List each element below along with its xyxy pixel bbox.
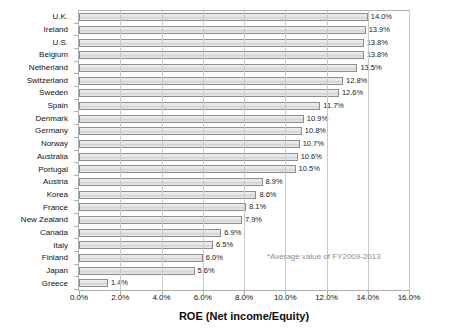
x-axis-tick [327, 291, 328, 295]
bar-value-label: 14.0% [371, 14, 392, 22]
bar-value-label: 10.9% [307, 115, 328, 123]
bar-value-label: 7.9% [245, 216, 262, 224]
chart-container: U.K.IrelandU.S.BelgiumNetherlandSwitzerl… [0, 0, 452, 333]
category-label: Canada [40, 229, 68, 237]
x-axis-tick [79, 291, 80, 295]
gridline [120, 11, 121, 290]
bar [79, 39, 364, 47]
category-label: U.S. [52, 39, 68, 47]
bar [79, 267, 195, 275]
bar [79, 153, 298, 161]
bar-value-label: 8.6% [259, 191, 276, 199]
bar [79, 51, 364, 59]
category-label: Belgium [39, 51, 68, 59]
gridline [244, 11, 245, 290]
bar-value-label: 10.8% [305, 128, 326, 136]
bar-value-label: 6.9% [224, 229, 241, 237]
category-label: Austria [43, 178, 68, 186]
bar-value-label: 12.6% [342, 90, 363, 98]
bar-value-label: 10.7% [303, 140, 324, 148]
y-axis-category-labels: U.K.IrelandU.S.BelgiumNetherlandSwitzerl… [0, 10, 74, 291]
bar [79, 229, 221, 237]
category-label: Australia [37, 153, 68, 161]
bar-value-label: 5.6% [198, 267, 215, 275]
bar [79, 26, 366, 34]
gridline [285, 11, 286, 290]
category-label: Germany [35, 127, 68, 135]
x-axis-tick [244, 291, 245, 295]
gridline [409, 11, 410, 290]
bar [79, 254, 203, 262]
x-axis-tick [368, 291, 369, 295]
category-label: Netherland [29, 64, 68, 72]
category-label: U.K. [52, 13, 68, 21]
x-axis-tick [285, 291, 286, 295]
bar [79, 203, 246, 211]
bar [79, 241, 213, 249]
gridline [368, 11, 369, 290]
bar [79, 178, 263, 186]
category-label: Korea [47, 191, 68, 199]
bar-value-label: 13.9% [369, 26, 390, 34]
category-label: Denmark [36, 115, 68, 123]
bar [79, 89, 339, 97]
category-label: Portugal [38, 166, 68, 174]
bar [79, 115, 304, 123]
chart-footnote: *Average value of FY2009-2013 [267, 252, 381, 261]
gridline [162, 11, 163, 290]
bar [79, 140, 300, 148]
bar-value-label: 8.9% [266, 178, 283, 186]
bar-value-label: 13.8% [367, 39, 388, 47]
category-label: Norway [41, 140, 68, 148]
bar [79, 279, 108, 287]
x-axis-tick-labels: 0.0%2.0%4.0%6.0%8.0%10.0%12.0%14.0%16.0% [78, 293, 410, 307]
x-axis-tick [203, 291, 204, 295]
bar-value-label: 6.5% [216, 242, 233, 250]
x-axis-tick [120, 291, 121, 295]
category-label: France [43, 204, 68, 212]
x-axis-tick [162, 291, 163, 295]
bar-value-label: 10.5% [299, 166, 320, 174]
plot-area: 14.0%13.9%13.8%13.8%13.5%12.8%12.6%11.7%… [78, 10, 410, 291]
bar-value-label: 13.5% [360, 64, 381, 72]
bar-value-label: 12.8% [346, 77, 367, 85]
bar [79, 191, 256, 199]
category-label: Spain [48, 102, 68, 110]
category-label: Greece [42, 280, 68, 288]
x-axis-title: ROE (Net income/Equity) [78, 310, 410, 322]
category-label: Japan [46, 267, 68, 275]
category-label: Ireland [44, 26, 68, 34]
bar [79, 13, 368, 21]
bar-value-label: 6.0% [206, 254, 223, 262]
bar-value-label: 8.1% [249, 204, 266, 212]
bar-value-label: 13.8% [367, 52, 388, 60]
category-label: New Zealand [21, 216, 68, 224]
bar-value-label: 10.6% [301, 153, 322, 161]
bar [79, 77, 343, 85]
gridline [327, 11, 328, 290]
x-axis-tick [409, 291, 410, 295]
category-label: Sweden [39, 89, 68, 97]
category-label: Switzerland [27, 77, 68, 85]
category-label: Italy [53, 242, 68, 250]
category-label: Finland [42, 254, 68, 262]
gridline [203, 11, 204, 290]
bar [79, 127, 302, 135]
bar [79, 102, 320, 110]
bar [79, 165, 296, 173]
bar [79, 216, 242, 224]
